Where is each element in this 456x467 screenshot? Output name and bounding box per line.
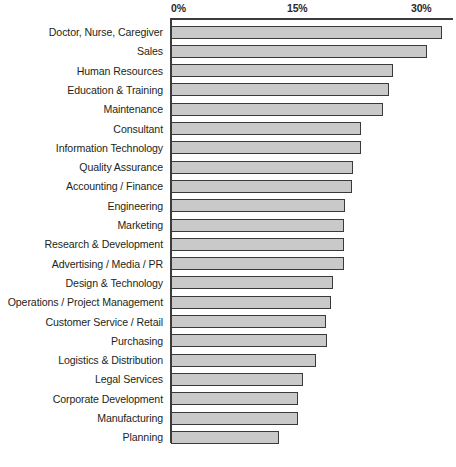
category-label: Logistics & Distribution: [0, 351, 163, 370]
bar-row: Design & Technology: [0, 274, 456, 293]
bar: [171, 276, 333, 289]
bar: [171, 315, 326, 328]
bar: [171, 431, 279, 444]
category-label: Engineering: [0, 197, 163, 216]
bar: [171, 161, 353, 174]
bar: [171, 334, 327, 347]
bar-row: Research & Development: [0, 235, 456, 254]
bar: [171, 238, 344, 251]
category-label: Operations / Project Management: [0, 293, 163, 312]
bar-row: Marketing: [0, 216, 456, 235]
x-axis-tick-labels: 0% 15% 30%: [0, 0, 456, 18]
bar: [171, 83, 389, 96]
bar: [171, 354, 316, 367]
bar-row: Maintenance: [0, 100, 456, 119]
bar-row: Consultant: [0, 120, 456, 139]
plot-area: Doctor, Nurse, CaregiverSalesHuman Resou…: [0, 18, 456, 448]
bar-row: Sales: [0, 42, 456, 61]
bar-row: Human Resources: [0, 62, 456, 81]
bar-row: Information Technology: [0, 139, 456, 158]
x-tick-label-1: 15%: [287, 2, 307, 14]
bar-row: Doctor, Nurse, Caregiver: [0, 23, 456, 42]
bar: [171, 373, 303, 386]
bar-row: Planning: [0, 428, 456, 447]
category-label: Consultant: [0, 120, 163, 139]
bar: [171, 141, 361, 154]
category-label: Marketing: [0, 216, 163, 235]
category-label: Legal Services: [0, 370, 163, 389]
category-label: Advertising / Media / PR: [0, 255, 163, 274]
category-label: Doctor, Nurse, Caregiver: [0, 23, 163, 42]
category-label: Education & Training: [0, 81, 163, 100]
bar-row: Engineering: [0, 197, 456, 216]
x-tick-label-0: 0%: [171, 2, 186, 14]
bar: [171, 296, 331, 309]
category-label: Human Resources: [0, 62, 163, 81]
category-label: Planning: [0, 428, 163, 447]
bar-row: Operations / Project Management: [0, 293, 456, 312]
bar: [171, 199, 345, 212]
category-label: Manufacturing: [0, 409, 163, 428]
bar: [171, 180, 352, 193]
bar: [171, 45, 427, 58]
x-axis-line: [170, 18, 453, 20]
bar: [171, 64, 393, 77]
category-label: Information Technology: [0, 139, 163, 158]
bar-row: Quality Assurance: [0, 158, 456, 177]
bar: [171, 392, 298, 405]
category-label: Customer Service / Retail: [0, 313, 163, 332]
category-label: Quality Assurance: [0, 158, 163, 177]
x-tick-label-2: 30%: [411, 2, 431, 14]
bar: [171, 103, 383, 116]
bar-row: Manufacturing: [0, 409, 456, 428]
category-label: Corporate Development: [0, 390, 163, 409]
bar: [171, 122, 361, 135]
bar: [171, 412, 298, 425]
category-label: Sales: [0, 42, 163, 61]
category-label: Design & Technology: [0, 274, 163, 293]
bar-row: Accounting / Finance: [0, 177, 456, 196]
bar-row: Education & Training: [0, 81, 456, 100]
category-label: Accounting / Finance: [0, 177, 163, 196]
bar-row: Customer Service / Retail: [0, 313, 456, 332]
horizontal-bar-chart: 0% 15% 30% Doctor, Nurse, CaregiverSales…: [0, 0, 456, 467]
category-label: Research & Development: [0, 235, 163, 254]
category-label: Purchasing: [0, 332, 163, 351]
bar: [171, 219, 344, 232]
bar: [171, 257, 344, 270]
bar-row: Logistics & Distribution: [0, 351, 456, 370]
bar-row: Corporate Development: [0, 390, 456, 409]
bar-row: Purchasing: [0, 332, 456, 351]
bar-row: Legal Services: [0, 370, 456, 389]
category-label: Maintenance: [0, 100, 163, 119]
bar-row: Advertising / Media / PR: [0, 255, 456, 274]
bar: [171, 26, 442, 39]
